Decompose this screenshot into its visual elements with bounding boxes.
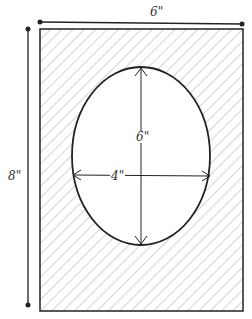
oval-width-label: 4" bbox=[110, 170, 125, 182]
frame-diagram bbox=[0, 0, 252, 319]
width-dimension-line bbox=[40, 22, 242, 24]
frame-height-label: 8" bbox=[7, 170, 22, 182]
frame-width-label: 6" bbox=[149, 6, 164, 18]
oval-height-label: 6" bbox=[135, 131, 150, 143]
